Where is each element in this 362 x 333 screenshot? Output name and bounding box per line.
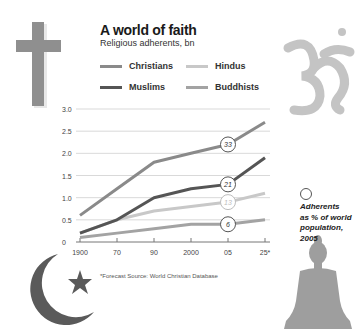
note-line: population, 2005 xyxy=(300,223,362,244)
y-tick-label: 2.0 xyxy=(62,150,72,157)
note-line: as % of world xyxy=(300,213,362,224)
y-tick-label: 3.0 xyxy=(62,106,72,113)
y-tick-label: 1.5 xyxy=(62,173,72,180)
series-line-christians xyxy=(80,122,265,215)
y-tick-label: 2.5 xyxy=(62,128,72,135)
note-line: Adherents xyxy=(300,202,362,213)
line-chart: 00.51.01.52.02.53.01900709020000525*3321… xyxy=(0,0,362,333)
x-tick-label: 25* xyxy=(260,249,271,256)
footnote: *Forecast Source: World Christian Databa… xyxy=(100,273,218,279)
y-tick-label: 0.5 xyxy=(62,217,72,224)
x-tick-label: 2000 xyxy=(183,249,199,256)
percent-label: 33 xyxy=(224,141,232,148)
percent-note: Adherents as % of world population, 2005 xyxy=(300,202,362,244)
percent-label: 21 xyxy=(223,181,232,188)
x-tick-label: 90 xyxy=(150,249,158,256)
percent-label: 6 xyxy=(226,221,230,228)
y-tick-label: 1.0 xyxy=(62,195,72,202)
x-tick-label: 1900 xyxy=(72,249,88,256)
x-tick-label: 05 xyxy=(224,249,232,256)
x-tick-label: 70 xyxy=(113,249,121,256)
percent-circle-icon xyxy=(300,188,312,200)
percent-label: 13 xyxy=(224,199,232,206)
y-tick-label: 0 xyxy=(62,239,66,246)
